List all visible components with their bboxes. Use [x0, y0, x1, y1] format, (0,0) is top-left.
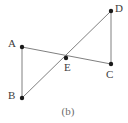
- vertex-label-d: D: [115, 3, 123, 14]
- vertex-point-c: [109, 62, 113, 66]
- vertex-label-c: C: [106, 69, 113, 80]
- figure-caption: (b): [56, 106, 80, 117]
- segments-group: [22, 11, 111, 98]
- geometry-figure-panel: ABCDE (b): [0, 0, 128, 123]
- vertex-point-d: [109, 9, 113, 13]
- vertex-point-e: [64, 56, 68, 60]
- segment-BD: [22, 11, 111, 98]
- vertex-point-a: [20, 45, 24, 49]
- vertex-point-b: [20, 96, 24, 100]
- vertex-label-b: B: [8, 90, 15, 101]
- vertex-label-e: E: [64, 62, 71, 73]
- vertex-label-a: A: [8, 38, 16, 49]
